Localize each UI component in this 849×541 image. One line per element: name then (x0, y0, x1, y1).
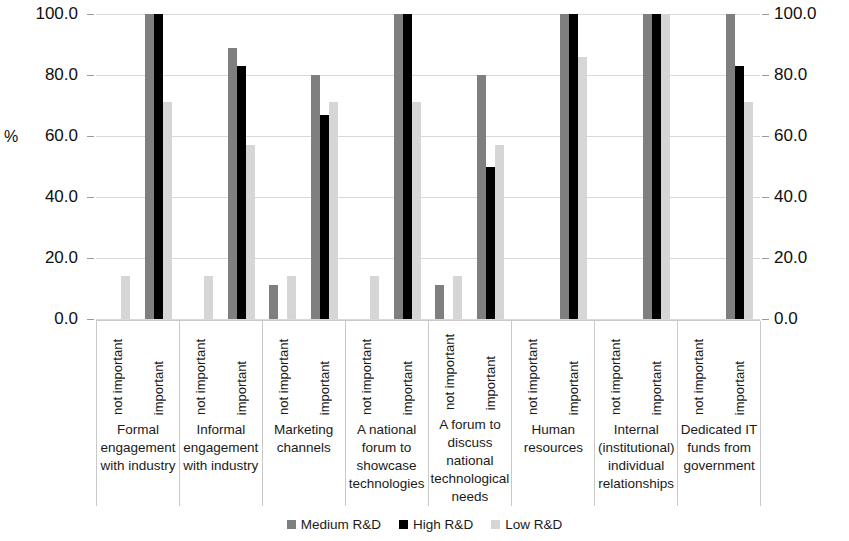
bar-subgroup (138, 14, 180, 319)
legend-label: Low R&D (505, 518, 562, 532)
bar-subgroup (470, 14, 512, 319)
subcategory-label: not important (512, 321, 553, 417)
category-cell: not importantimportantMarketing channels (262, 321, 346, 506)
category-cell: not importantimportantHuman resources (511, 321, 595, 506)
subcategory-labels: not importantimportant (97, 321, 179, 417)
bar (412, 102, 421, 319)
bar (403, 14, 412, 319)
bar (370, 276, 379, 319)
subcategory-label: not important (97, 321, 138, 417)
axis-tick (87, 136, 94, 137)
subcategory-label: important (304, 321, 345, 417)
axis-tick (87, 319, 94, 320)
category-label-band: not importantimportantFormal engagement … (96, 320, 760, 506)
category-cell: not importantimportantInformal engagemen… (179, 321, 263, 506)
bar (560, 14, 569, 319)
y-axis-right-tick-label: 60.0 (774, 127, 807, 144)
subcategory-label: important (387, 321, 428, 417)
legend-label: Medium R&D (301, 518, 381, 532)
subcategory-label: not important (678, 321, 719, 417)
bar-group (511, 14, 594, 319)
axis-tick (762, 14, 769, 15)
bar (652, 14, 661, 319)
legend-item[interactable]: Medium R&D (287, 518, 381, 532)
subcategory-labels: not importantimportant (180, 321, 262, 417)
bar (495, 145, 504, 319)
bar (661, 14, 670, 319)
axis-tick (87, 258, 94, 259)
subcategory-label: not important (263, 321, 304, 417)
subcategory-label-text: not important (360, 339, 373, 415)
y-axis-right-tick-label: 100.0 (774, 5, 817, 22)
subcategory-label-text: not important (277, 339, 290, 415)
subcategory-labels: not importantimportant (678, 321, 760, 417)
bar (329, 102, 338, 319)
axis-tick (87, 14, 94, 15)
axis-tick (87, 197, 94, 198)
legend-item[interactable]: High R&D (399, 518, 473, 532)
subcategory-label-text: important (650, 361, 663, 415)
y-axis-right-tick-label: 20.0 (774, 249, 807, 266)
legend-swatch-icon (491, 520, 500, 529)
bar (121, 276, 130, 319)
legend-item[interactable]: Low R&D (491, 518, 562, 532)
category-title: Informal engagement with industry (180, 417, 262, 475)
subcategory-label: not important (429, 321, 470, 412)
subcategory-label: not important (180, 321, 221, 417)
subcategory-label: important (221, 321, 262, 417)
subcategory-label: important (470, 321, 511, 412)
subcategory-label: not important (595, 321, 636, 417)
legend-swatch-icon (287, 520, 296, 529)
category-cell: not importantimportantA forum to discuss… (428, 321, 513, 506)
category-cell: not importantimportantA national forum t… (345, 321, 429, 506)
chart-legend: Medium R&DHigh R&DLow R&D (0, 518, 849, 532)
category-title: Dedicated IT funds from government (678, 417, 760, 475)
subcategory-label-text: important (318, 361, 331, 415)
y-axis-left-tick-label: 60.0 (0, 127, 78, 144)
bar (154, 14, 163, 319)
y-axis-left-tick-label: 20.0 (0, 249, 78, 266)
bar-groups (96, 14, 760, 319)
bar (246, 145, 255, 319)
bar-subgroup (345, 14, 387, 319)
bar (453, 276, 462, 319)
y-axis-left-tick-label: 40.0 (0, 188, 78, 205)
subcategory-label-text: important (567, 361, 580, 415)
axis-tick (762, 319, 769, 320)
plot-area (96, 14, 760, 319)
bar (578, 57, 587, 319)
bar (726, 14, 735, 319)
axis-tick (762, 197, 769, 198)
axis-tick (762, 75, 769, 76)
bar (486, 167, 495, 320)
subcategory-label: not important (346, 321, 387, 417)
bar-subgroup (262, 14, 304, 319)
bar-subgroup (677, 14, 719, 319)
bar-chart: % 0.020.040.060.080.0100.0 0.020.040.060… (0, 0, 849, 541)
bar (145, 14, 154, 319)
bar-group (594, 14, 677, 319)
subcategory-label: important (138, 321, 179, 417)
subcategory-labels: not importantimportant (512, 321, 594, 417)
category-cell: not importantimportantInternal (institut… (594, 321, 678, 506)
bar-group (677, 14, 760, 319)
subcategory-label-text: not important (443, 334, 456, 410)
bar-subgroup (96, 14, 138, 319)
category-title: A national forum to showcase technologie… (346, 417, 428, 493)
axis-tick (762, 136, 769, 137)
bar-subgroup (719, 14, 761, 319)
subcategory-labels: not importantimportant (429, 321, 512, 412)
bar-subgroup (221, 14, 263, 319)
y-axis-right-tick-label: 40.0 (774, 188, 807, 205)
bar-group (345, 14, 428, 319)
bar (311, 75, 320, 319)
category-title: A forum to discuss national technologica… (429, 412, 512, 506)
y-axis-left-tick-label: 0.0 (0, 310, 78, 327)
bar (237, 66, 246, 319)
bar-group (96, 14, 179, 319)
bar (744, 102, 753, 319)
subcategory-label: important (553, 321, 594, 417)
subcategory-label-text: important (733, 361, 746, 415)
legend-label: High R&D (413, 518, 473, 532)
legend-swatch-icon (399, 520, 408, 529)
